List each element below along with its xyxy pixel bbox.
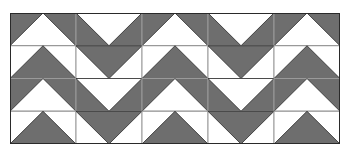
pattern-cell bbox=[10, 111, 76, 144]
pattern-cell bbox=[142, 79, 208, 112]
pattern-cell bbox=[208, 46, 274, 79]
pattern-cell bbox=[76, 46, 142, 79]
pattern-cell bbox=[76, 13, 142, 46]
pattern-cell bbox=[274, 111, 340, 144]
pattern-cell bbox=[10, 46, 76, 79]
pattern-cell bbox=[142, 13, 208, 46]
pattern-cell bbox=[142, 46, 208, 79]
chevron-pattern bbox=[10, 13, 340, 144]
pattern-cell bbox=[10, 13, 76, 46]
pattern-cell bbox=[10, 79, 76, 112]
chevron-pattern-grid bbox=[10, 13, 340, 144]
pattern-cell bbox=[208, 111, 274, 144]
pattern-cell bbox=[274, 13, 340, 46]
pattern-cell bbox=[76, 111, 142, 144]
pattern-cell bbox=[208, 13, 274, 46]
pattern-cell bbox=[274, 79, 340, 112]
pattern-cell bbox=[76, 79, 142, 112]
pattern-cell bbox=[274, 46, 340, 79]
pattern-cell bbox=[208, 79, 274, 112]
pattern-cell bbox=[142, 111, 208, 144]
